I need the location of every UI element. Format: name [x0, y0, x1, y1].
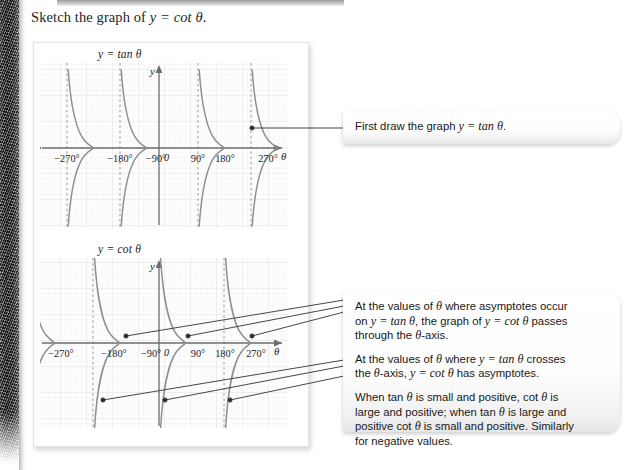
question-text: Sketch the graph of y = cot θ. — [31, 9, 206, 26]
graph-tan: y = tan θ — [34, 43, 308, 233]
ann2-p2-l1d: y = tan θ — [479, 352, 523, 366]
ann2-p3-l2c: is large and — [505, 406, 567, 418]
svg-text:270°: 270° — [246, 348, 266, 359]
svg-text:180°: 180° — [215, 153, 235, 164]
ann2-p2-l2a: the — [355, 367, 374, 379]
question-equation: y = cot θ — [150, 9, 203, 25]
ann2-p2-l1e: crosses — [523, 353, 565, 365]
annotation-first-equation: y = tan θ — [459, 119, 503, 133]
svg-text:180°: 180° — [215, 348, 235, 359]
graph-cot-xaxis-label: θ — [274, 345, 280, 357]
ann2-p1-l3c: -axis. — [421, 329, 448, 341]
ann2-p1-l2d: y = cot θ — [485, 314, 529, 328]
ann2-p2-l2c: -axis, — [380, 367, 410, 379]
ann2-p3-l1c: is small and positive, cot — [413, 391, 542, 403]
ann2-p1-l1a: At the values of — [355, 300, 436, 312]
question-text-after: . — [203, 9, 207, 25]
ann2-p2-l1a: At the values of — [355, 353, 436, 365]
svg-text:270°: 270° — [258, 153, 278, 164]
svg-text:−270°: −270° — [54, 153, 79, 164]
ann2-p1-l3a: through the — [355, 329, 415, 341]
graph-tan-xaxis-label: θ — [281, 150, 287, 162]
annotation-paragraph-1: At the values of θ where asymptotes occu… — [355, 299, 610, 343]
ann2-p2-l1c: where — [442, 353, 479, 365]
ann2-p3-l1e: is — [547, 391, 558, 403]
svg-text:−180°: −180° — [107, 153, 132, 164]
ann2-p3-l3a: positive cot — [355, 420, 415, 432]
ann2-p1-l2b: y = tan θ — [371, 314, 415, 328]
top-divider-rule — [57, 0, 344, 6]
svg-text:0: 0 — [164, 152, 170, 163]
ann2-p2-l2d: y = cot θ — [410, 366, 454, 380]
ann2-p3-l2a: large and positive; when tan — [355, 406, 499, 418]
graph-cot-canvas: −270° −180° −90° 0 90° 180° 270° θ y — [34, 236, 308, 441]
svg-text:−270°: −270° — [48, 348, 73, 359]
ann2-p2-l2e: has asymptotes. — [454, 367, 539, 379]
textbook-page: Sketch the graph of y = cot θ. y = tan θ — [0, 0, 626, 470]
annotation-paragraph-3: When tan θ is small and positive, cot θ … — [355, 390, 610, 448]
annotation-first-a: First draw the graph — [355, 120, 459, 132]
figure-card: y = tan θ — [33, 42, 309, 447]
page-inner-edge — [19, 0, 26, 470]
ann2-p3-l3c: is small and positive. Similarly — [421, 420, 574, 432]
ann2-p1-l2c: , the graph of — [415, 315, 485, 327]
svg-text:0: 0 — [164, 347, 170, 358]
book-binding-texture — [0, 0, 19, 470]
svg-text:90°: 90° — [191, 348, 205, 359]
ann2-p3-l4: for negative values. — [355, 434, 610, 449]
svg-text:90°: 90° — [191, 153, 205, 164]
annotation-bubble-first-draw: First draw the graph y = tan θ. — [343, 111, 620, 144]
svg-text:−180°: −180° — [101, 348, 126, 359]
graph-cot-yaxis-label: y — [149, 260, 155, 272]
ann2-p3-l1a: When tan — [355, 391, 407, 403]
annotation-first-b: . — [503, 120, 506, 132]
annotation-paragraph-2: At the values of θ where y = tan θ cross… — [355, 352, 610, 381]
annotation-first-line: First draw the graph y = tan θ. — [355, 119, 610, 134]
graph-tan-yaxis-label: y — [149, 65, 155, 77]
graph-cot: y = cot θ — [34, 236, 308, 441]
question-text-before: Sketch the graph of — [31, 9, 150, 25]
graph-tan-canvas: −270° −180° −90° 0 90° 180° 270° θ y — [34, 43, 308, 233]
ann2-p1-l2e: passes — [528, 315, 567, 327]
annotation-bubble-explanation: At the values of θ where asymptotes occu… — [343, 292, 620, 432]
svg-text:−90°: −90° — [141, 348, 161, 359]
ann2-p1-l2a: on — [355, 315, 371, 327]
ann2-p1-l1c: where asymptotes occur — [442, 300, 568, 312]
